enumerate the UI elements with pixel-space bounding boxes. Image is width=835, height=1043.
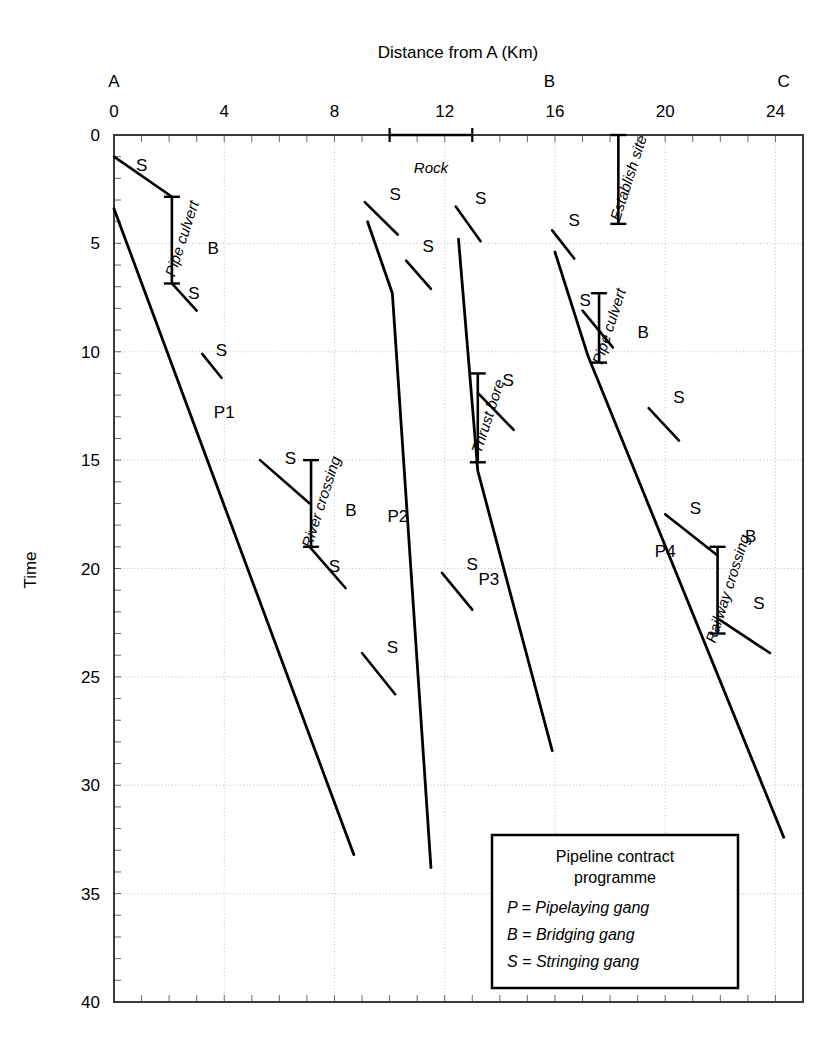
span-rock: Rock [390, 128, 473, 176]
stringing-run: S [202, 341, 227, 378]
stringing-run: S [310, 547, 346, 588]
y-tick-label: 35 [81, 885, 100, 904]
x-tick-label: 8 [330, 102, 339, 121]
pipelaying-line [368, 222, 431, 868]
stringing-run: S [456, 189, 486, 241]
gang-label-p2: P2 [387, 507, 408, 526]
gang-label-b: B [637, 323, 648, 342]
activity-label: River crossing [298, 453, 344, 549]
time-chainage-chart: Distance from A (Km) Time 04812162024 05… [0, 0, 835, 1043]
y-tick-labels: 0510152025303540 [81, 126, 100, 1012]
y-tick-label: 0 [91, 126, 100, 145]
stringing-runs: SSSSSSSSSSSSSSSS [114, 156, 770, 694]
legend-title-line1: Pipeline contract [556, 848, 675, 865]
gang-label-b: B [745, 527, 756, 546]
node-label-c: C [778, 72, 790, 91]
bridging-activity: Pipe culvertB [589, 286, 649, 367]
stringing-line [718, 618, 770, 653]
gang-label-s: S [467, 555, 478, 574]
gang-label-s: S [188, 284, 199, 303]
gang-label-s: S [136, 156, 147, 175]
x-tick-label: 0 [109, 102, 118, 121]
node-markers: ABC [108, 72, 790, 91]
stringing-run: S [406, 237, 434, 289]
bridging-activity: Establish site [606, 133, 649, 224]
stringing-run: S [172, 283, 200, 310]
pipelaying-series: P1P2P3P4 [114, 209, 784, 868]
span-label: Rock [414, 159, 450, 176]
gang-label-s: S [475, 189, 486, 208]
x-tick-label: 12 [435, 102, 454, 121]
x-tick-label: 16 [545, 102, 564, 121]
node-label-b: B [544, 72, 555, 91]
gang-label-b: B [208, 239, 219, 258]
gang-label-s: S [753, 594, 764, 613]
gang-label-s: S [502, 371, 513, 390]
legend-box: Pipeline contract programme P = Pipelayi… [492, 835, 738, 988]
x-axis-title: Distance from A (Km) [378, 43, 539, 62]
stringing-line [406, 261, 431, 289]
gang-label-s: S [580, 291, 591, 310]
stringing-run: S [114, 156, 172, 196]
y-tick-label: 40 [81, 993, 100, 1012]
gang-label-s: S [673, 388, 684, 407]
y-tick-label: 10 [81, 343, 100, 362]
y-tick-label: 5 [91, 234, 100, 253]
gang-label-s: S [569, 211, 580, 230]
gang-label-s: S [216, 341, 227, 360]
x-tick-label: 24 [766, 102, 785, 121]
stringing-line [442, 573, 472, 610]
stringing-line [362, 653, 395, 694]
gang-label-s: S [387, 638, 398, 657]
stringing-line [456, 207, 481, 242]
gang-label-p4: P4 [655, 542, 676, 561]
pipelaying-series-p3: P3 [459, 239, 553, 751]
legend-item-bridging: B = Bridging gang [507, 926, 635, 943]
y-tick-label: 15 [81, 451, 100, 470]
stringing-run: S [260, 449, 310, 504]
x-tick-label: 20 [656, 102, 675, 121]
gang-label-s: S [329, 557, 340, 576]
gang-label-s: S [285, 449, 296, 468]
gang-label-s: S [423, 237, 434, 256]
stringing-line [649, 408, 679, 441]
gang-label-s: S [690, 499, 701, 518]
x-tick-labels: 04812162024 [109, 102, 785, 121]
gang-label-p1: P1 [214, 403, 235, 422]
pipelaying-series-p2: P2 [368, 222, 431, 868]
gang-label-p3: P3 [478, 570, 499, 589]
y-tick-label: 20 [81, 560, 100, 579]
y-axis-title: Time [21, 551, 40, 588]
gang-label-b: B [345, 501, 356, 520]
bridging-activity: Pipe culvertB [161, 197, 218, 284]
stringing-run: S [649, 388, 685, 440]
y-tick-label: 25 [81, 668, 100, 687]
legend-item-pipelaying: P = Pipelaying gang [507, 899, 649, 916]
gang-label-s: S [389, 185, 400, 204]
y-tick-label: 30 [81, 776, 100, 795]
legend-title-line2: programme [574, 869, 656, 886]
chart-root: Distance from A (Km) Time 04812162024 05… [0, 0, 835, 1043]
span-annotations: Rock [390, 128, 473, 176]
stringing-run: S [362, 638, 398, 695]
stringing-run: S [552, 211, 580, 259]
activity-label: Pipe culvert [161, 198, 202, 279]
activity-label: Establish site [606, 133, 649, 222]
x-tick-label: 4 [220, 102, 229, 121]
node-label-a: A [108, 72, 120, 91]
pipelaying-line [459, 239, 553, 751]
legend-item-stringing: S = Stringing gang [507, 953, 639, 970]
stringing-run: S [442, 555, 478, 610]
